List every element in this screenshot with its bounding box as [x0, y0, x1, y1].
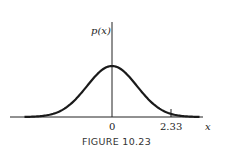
figure-caption: FIGURE 10.23	[82, 136, 151, 147]
normal-distribution-figure: p(x) x 0 2.33 FIGURE 10.23	[0, 0, 226, 157]
tick-label-critical: 2.33	[160, 121, 182, 132]
tick-label-zero: 0	[109, 121, 115, 132]
y-axis-label: p(x)	[91, 25, 111, 36]
x-axis-label: x	[205, 121, 211, 132]
